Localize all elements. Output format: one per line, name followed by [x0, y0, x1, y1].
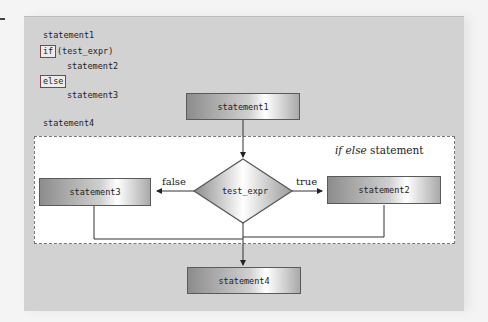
- box-statement3: statement3: [39, 178, 151, 206]
- box-statement4: statement4: [187, 267, 301, 294]
- box-statement2: statement2: [327, 176, 441, 204]
- decision-label: test_expr: [222, 186, 268, 196]
- true-label: true: [296, 176, 317, 187]
- false-label: false: [162, 176, 186, 187]
- box-statement1: statement1: [186, 93, 300, 120]
